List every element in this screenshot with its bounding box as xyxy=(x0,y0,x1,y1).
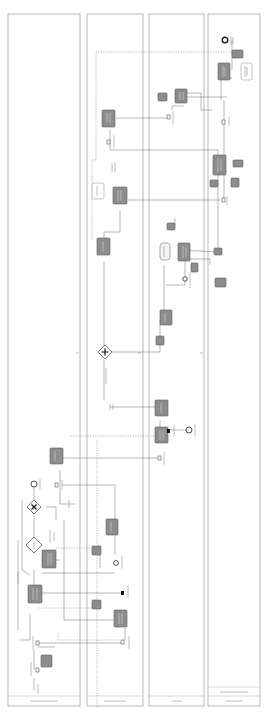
task-shape xyxy=(41,655,52,667)
throw-message-icon xyxy=(121,591,124,595)
task-shape xyxy=(167,223,175,230)
end-event-icon xyxy=(114,561,119,566)
message-marker-icon xyxy=(107,140,110,144)
pool-4 xyxy=(208,14,260,706)
throw-message-icon xyxy=(167,429,170,433)
task-shape xyxy=(113,187,127,204)
message-flows xyxy=(18,40,240,708)
gateway-parallel xyxy=(98,345,112,359)
end-event-icon xyxy=(186,427,192,433)
task-shape xyxy=(231,178,239,187)
task-shape xyxy=(175,89,187,103)
task-shape xyxy=(92,600,101,609)
task-shape xyxy=(156,336,164,345)
message-marker-icon xyxy=(55,483,58,487)
pool-3-elements xyxy=(155,89,226,465)
task-shape xyxy=(215,278,226,287)
pool-2-elements xyxy=(92,110,129,649)
data-object-icon xyxy=(241,63,252,80)
message-marker-icon xyxy=(36,641,39,645)
message-marker-icon xyxy=(167,115,170,119)
pool-1-elements xyxy=(18,448,69,694)
message-marker-icon xyxy=(121,640,124,644)
task-shape xyxy=(92,546,101,555)
task-shape xyxy=(97,238,110,255)
pool-4-elements xyxy=(210,36,252,255)
data-store-icon xyxy=(160,243,170,260)
message-marker-icon xyxy=(158,456,161,460)
message-marker-icon xyxy=(222,198,225,202)
task-shape xyxy=(42,550,56,568)
task-shape xyxy=(218,63,230,80)
task-shape xyxy=(233,160,243,167)
task-shape xyxy=(155,400,168,416)
task-shape xyxy=(160,310,172,325)
pool-1 xyxy=(8,14,80,706)
intermediate-event-icon xyxy=(183,277,187,281)
task-shape xyxy=(214,248,222,255)
task-shape xyxy=(178,243,190,261)
task-shape xyxy=(28,585,42,603)
task-shape xyxy=(213,155,226,175)
task-shape xyxy=(106,519,118,535)
task-shape xyxy=(158,93,167,101)
task-shape xyxy=(232,50,243,58)
data-object-icon xyxy=(92,183,104,199)
message-marker-icon xyxy=(222,120,225,124)
gateway-decision xyxy=(26,537,42,553)
task-shape xyxy=(102,110,115,127)
message-marker-icon xyxy=(36,668,39,672)
task-shape xyxy=(114,610,127,627)
end-event-icon xyxy=(222,37,228,43)
task-shape xyxy=(191,263,198,272)
start-event-icon xyxy=(31,481,37,487)
task-shape xyxy=(210,180,218,187)
gateway-exclusive xyxy=(27,500,41,514)
task-shape xyxy=(50,448,63,464)
bpmn-diagram-canvas xyxy=(0,0,264,712)
task-shape xyxy=(155,427,168,443)
